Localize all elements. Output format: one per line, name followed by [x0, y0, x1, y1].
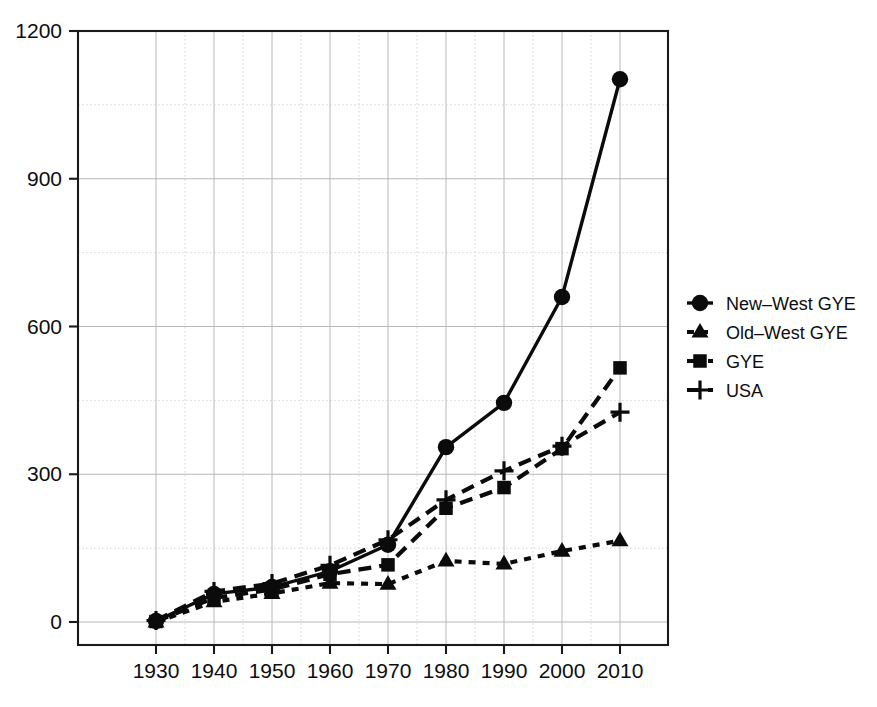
- data-point-marker-square: [693, 354, 707, 368]
- data-point-marker-square: [381, 558, 395, 572]
- legend-item-label: GYE: [726, 352, 764, 372]
- y-axis-tick-label: 0: [50, 610, 62, 633]
- x-axis-tick-label: 1960: [307, 659, 354, 682]
- x-axis-tick-label: 1990: [481, 659, 528, 682]
- x-axis-tick-label: 1940: [191, 659, 238, 682]
- data-point-marker-circle: [496, 395, 512, 411]
- x-axis-tick-label: 2010: [597, 659, 644, 682]
- y-axis-tick-label: 1200: [15, 19, 62, 42]
- chart-container: 03006009001200 1930194019501960197019801…: [0, 0, 877, 707]
- data-point-marker-circle: [554, 289, 570, 305]
- x-axis-tick-label: 1930: [133, 659, 180, 682]
- x-axis-tick-label: 1950: [249, 659, 296, 682]
- data-point-marker-circle: [692, 295, 708, 311]
- x-axis-tick-label: 1970: [365, 659, 412, 682]
- x-axis-tick-labels: 193019401950196019701980199020002010: [133, 659, 644, 682]
- line-chart: 03006009001200 1930194019501960197019801…: [0, 0, 877, 707]
- y-axis-tick-label: 600: [27, 315, 62, 338]
- data-point-marker-circle: [612, 71, 628, 87]
- y-axis-tick-label: 300: [27, 462, 62, 485]
- legend-item-label: USA: [726, 381, 763, 401]
- data-point-marker-square: [613, 361, 627, 375]
- y-axis-tick-label: 900: [27, 167, 62, 190]
- x-axis-tick-label: 2000: [539, 659, 586, 682]
- legend-item-label: New–West GYE: [726, 294, 856, 314]
- legend-item-label: Old–West GYE: [726, 323, 848, 343]
- x-axis-tick-label: 1980: [423, 659, 470, 682]
- data-point-marker-circle: [438, 439, 454, 455]
- data-point-marker-square: [497, 481, 511, 495]
